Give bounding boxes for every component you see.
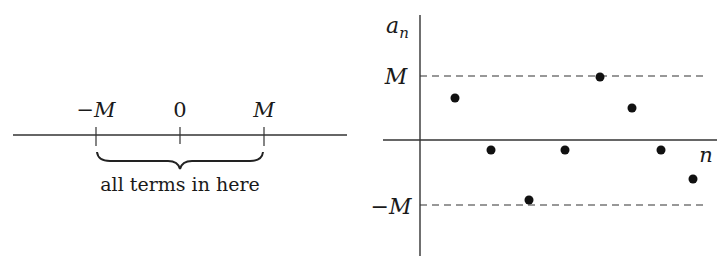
data-point	[628, 104, 637, 113]
data-point	[487, 146, 496, 155]
x-axis-label: n	[699, 143, 713, 167]
data-point	[561, 146, 570, 155]
data-points	[451, 73, 698, 205]
sequence-plot: an n M −M	[371, 13, 717, 256]
label-neg-m: −M	[76, 98, 116, 122]
y-axis-label-sub: n	[399, 24, 409, 42]
brace-label: all terms in here	[100, 173, 259, 195]
data-point	[451, 94, 460, 103]
label-pos-m: M	[252, 98, 275, 122]
lower-bound-label: −M	[371, 194, 412, 219]
number-line-figure: −M 0 M all terms in here	[13, 98, 347, 195]
y-axis-label: an	[386, 13, 409, 42]
data-point	[657, 146, 666, 155]
data-point	[596, 73, 605, 82]
y-axis-label-main: a	[386, 13, 399, 38]
data-point	[525, 196, 534, 205]
diagram-canvas: −M 0 M all terms in here an n M −M	[0, 0, 724, 268]
data-point	[689, 175, 698, 184]
underbrace	[97, 152, 263, 169]
upper-bound-label: M	[384, 64, 408, 89]
label-zero: 0	[173, 98, 186, 122]
